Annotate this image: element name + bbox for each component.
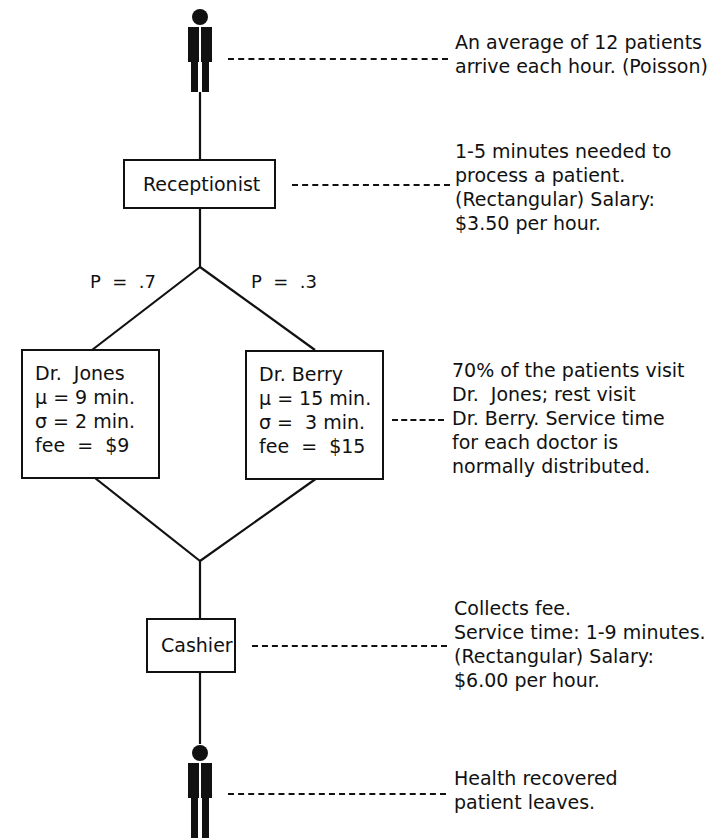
departure-note-line: patient leaves. xyxy=(454,790,618,814)
right-branch-probability: P = .3 xyxy=(251,271,317,292)
arrival-note-line: An average of 12 patients xyxy=(455,30,708,54)
doctors-note-line: normally distributed. xyxy=(452,454,685,478)
cashier-note: Collects fee. Service time: 1-9 minutes.… xyxy=(454,596,706,692)
cashier-note-line: (Rectangular) Salary: xyxy=(454,644,706,668)
doctors-note-line: for each doctor is xyxy=(452,430,685,454)
doctors-note-line: 70% of the patients visit xyxy=(452,358,685,382)
departure-note-line: Health recovered xyxy=(454,766,618,790)
doctor-mean: μ = 15 min. xyxy=(259,386,382,410)
receptionist-label: Receptionist xyxy=(143,172,260,196)
doctors-note-line: Dr. Berry. Service time xyxy=(452,406,685,430)
cashier-label: Cashier xyxy=(161,633,233,657)
doctors-note: 70% of the patients visit Dr. Jones; res… xyxy=(452,358,685,478)
doctor-name: Dr. Jones xyxy=(35,361,158,385)
doctor-jones-node: Dr. Jones μ = 9 min. σ = 2 min. fee = $9 xyxy=(21,349,160,479)
receptionist-node: Receptionist xyxy=(123,159,276,209)
doctor-fee: fee = $15 xyxy=(259,434,382,458)
receptionist-note-line: process a patient. xyxy=(455,163,671,187)
doctor-berry-node: Dr. Berry μ = 15 min. σ = 3 min. fee = $… xyxy=(245,350,384,480)
doctor-mean: μ = 9 min. xyxy=(35,385,158,409)
cashier-note-line: Collects fee. xyxy=(454,596,706,620)
arrival-connector xyxy=(228,58,448,60)
doctor-stddev: σ = 2 min. xyxy=(35,409,158,433)
doctor-name: Dr. Berry xyxy=(259,362,382,386)
receptionist-note-line: 1-5 minutes needed to xyxy=(455,139,671,163)
cashier-node: Cashier xyxy=(146,618,236,673)
departure-person-icon xyxy=(188,745,212,838)
receptionist-note-line: $3.50 per hour. xyxy=(455,211,671,235)
doctor-fee: fee = $9 xyxy=(35,433,158,457)
arrival-person-icon xyxy=(188,9,212,92)
departure-note: Health recovered patient leaves. xyxy=(454,766,618,814)
arrival-note: An average of 12 patients arrive each ho… xyxy=(455,30,708,78)
cashier-connector xyxy=(252,645,447,647)
departure-connector xyxy=(228,793,446,795)
doctor-stddev: σ = 3 min. xyxy=(259,410,382,434)
arrival-note-line: arrive each hour. (Poisson) xyxy=(455,54,708,78)
receptionist-note: 1-5 minutes needed to process a patient.… xyxy=(455,139,671,235)
doctors-note-line: Dr. Jones; rest visit xyxy=(452,382,685,406)
cashier-note-line: Service time: 1-9 minutes. xyxy=(454,620,706,644)
receptionist-connector xyxy=(292,184,450,186)
receptionist-note-line: (Rectangular) Salary: xyxy=(455,187,671,211)
left-branch-probability: P = .7 xyxy=(90,271,156,292)
cashier-note-line: $6.00 per hour. xyxy=(454,668,706,692)
doctors-connector xyxy=(392,419,444,421)
